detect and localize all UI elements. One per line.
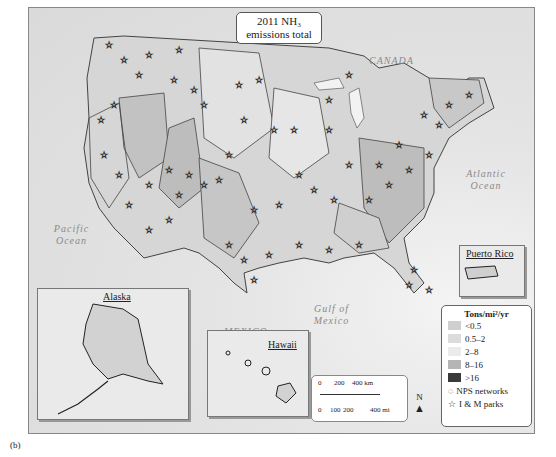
svg-text:☆: ☆: [135, 70, 143, 80]
label-atlantic: Atlantic Ocean: [461, 168, 511, 192]
alaska-map: [38, 289, 188, 419]
alaska-title: Alaska: [103, 291, 131, 302]
legend-item: 8–16: [442, 358, 531, 371]
svg-text:☆: ☆: [97, 115, 105, 125]
svg-text:☆: ☆: [355, 240, 363, 250]
legend-item: <0.5: [442, 319, 531, 332]
svg-text:☆: ☆: [325, 245, 333, 255]
legend-item-parks: ☆I & M parks: [442, 397, 531, 410]
legend-item: >16: [442, 371, 531, 384]
svg-text:☆: ☆: [240, 115, 248, 125]
star-icon: ☆: [448, 399, 456, 409]
label-canada: CANADA: [369, 55, 414, 67]
svg-text:☆: ☆: [125, 200, 133, 210]
puerto-rico-inset: Puerto Rico: [459, 245, 525, 297]
alaska-inset: Alaska: [37, 288, 189, 420]
north-arrow: N ▲: [414, 392, 425, 414]
svg-text:☆: ☆: [375, 160, 383, 170]
svg-text:☆: ☆: [435, 120, 443, 130]
svg-text:☆: ☆: [215, 175, 223, 185]
svg-text:☆: ☆: [425, 285, 433, 295]
svg-text:☆: ☆: [405, 280, 413, 290]
svg-text:☆: ☆: [295, 170, 303, 180]
map-frame: ☆☆☆☆ ☆☆☆☆ ☆☆☆☆ ☆☆☆☆ ☆☆☆☆ ☆☆☆☆ ☆☆☆☆ ☆☆☆☆ …: [28, 7, 535, 434]
label-pacific: Pacific Ocean: [49, 223, 94, 247]
svg-text:☆: ☆: [165, 165, 173, 175]
svg-text:☆: ☆: [420, 110, 428, 120]
svg-text:☆: ☆: [145, 180, 153, 190]
svg-text:☆: ☆: [425, 150, 433, 160]
puerto-rico-title: Puerto Rico: [466, 248, 514, 259]
map-title: 2011 NH₃ emissions total: [236, 12, 322, 44]
svg-text:☆: ☆: [110, 100, 118, 110]
svg-text:☆: ☆: [250, 205, 258, 215]
svg-text:☆: ☆: [395, 140, 403, 150]
svg-text:☆: ☆: [310, 185, 318, 195]
svg-text:☆: ☆: [290, 125, 298, 135]
svg-text:☆: ☆: [190, 85, 198, 95]
svg-text:☆: ☆: [365, 195, 373, 205]
svg-text:☆: ☆: [200, 100, 208, 110]
svg-text:☆: ☆: [175, 190, 183, 200]
scale-bar: 0 200 400 km 0 100 200 400 mi: [311, 375, 408, 422]
svg-text:☆: ☆: [175, 45, 183, 55]
legend-header: Tons/mi²/yr: [442, 309, 531, 319]
svg-text:☆: ☆: [240, 255, 248, 265]
nps-network-icon: ◌: [448, 386, 453, 396]
svg-text:☆: ☆: [145, 50, 153, 60]
hawaii-title: Hawaii: [268, 339, 297, 350]
svg-text:☆: ☆: [265, 250, 273, 260]
north-arrow-icon: ▲: [414, 402, 425, 414]
svg-text:☆: ☆: [410, 265, 418, 275]
figure-caption: (b): [10, 440, 21, 450]
svg-text:☆: ☆: [275, 200, 283, 210]
svg-text:☆: ☆: [330, 195, 338, 205]
svg-text:☆: ☆: [325, 125, 333, 135]
svg-text:☆: ☆: [200, 180, 208, 190]
svg-text:☆: ☆: [325, 95, 333, 105]
svg-text:☆: ☆: [145, 225, 153, 235]
svg-text:☆: ☆: [100, 150, 108, 160]
svg-text:☆: ☆: [405, 165, 413, 175]
label-gulf: Gulf of Mexico: [309, 303, 354, 327]
svg-text:☆: ☆: [270, 125, 278, 135]
svg-text:☆: ☆: [255, 75, 263, 85]
svg-text:☆: ☆: [345, 160, 353, 170]
svg-text:☆: ☆: [185, 170, 193, 180]
svg-text:☆: ☆: [170, 75, 178, 85]
svg-text:☆: ☆: [115, 170, 123, 180]
legend-item: 2–8: [442, 345, 531, 358]
svg-text:☆: ☆: [225, 240, 233, 250]
legend-item-nps: ◌NPS networks: [442, 384, 531, 397]
legend: Tons/mi²/yr <0.5 0.5–2 2–8 8–16 >16 ◌NPS…: [441, 305, 532, 427]
svg-text:☆: ☆: [345, 70, 353, 80]
svg-text:☆: ☆: [165, 215, 173, 225]
svg-text:☆: ☆: [225, 150, 233, 160]
legend-item: 0.5–2: [442, 332, 531, 345]
svg-text:☆: ☆: [120, 55, 128, 65]
hawaii-inset: Hawaii: [207, 330, 309, 417]
svg-text:☆: ☆: [295, 240, 303, 250]
svg-text:☆: ☆: [385, 180, 393, 190]
svg-text:☆: ☆: [235, 80, 243, 90]
svg-text:☆: ☆: [445, 100, 453, 110]
svg-text:☆: ☆: [250, 275, 258, 285]
svg-text:☆: ☆: [465, 90, 473, 100]
svg-text:☆: ☆: [105, 40, 113, 50]
